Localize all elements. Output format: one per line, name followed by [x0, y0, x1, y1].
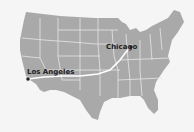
us-map: Chicago Los Angeles	[0, 0, 194, 132]
los-angeles-marker[interactable]	[26, 77, 30, 81]
chicago-label: Chicago	[106, 43, 137, 51]
us-landmass	[20, 10, 184, 120]
map-container: Chicago Los Angeles	[0, 0, 194, 132]
los-angeles-label: Los Angeles	[27, 68, 74, 76]
